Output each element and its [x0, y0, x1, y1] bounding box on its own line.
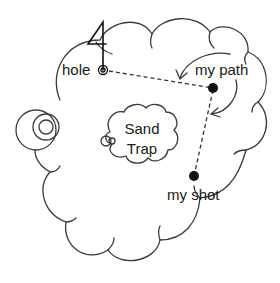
sand-label-line2: Trap: [127, 140, 157, 157]
golf-diagram: Sand Trap hole my path my shot: [0, 0, 280, 283]
sand-label-line1: Sand: [124, 120, 159, 137]
ball-position: [208, 83, 218, 93]
flag-icon: [88, 22, 106, 70]
my-shot-ball: [189, 171, 199, 181]
sand-trap: Sand Trap: [101, 105, 178, 164]
tee-icon: [16, 110, 59, 150]
my-path-label: my path: [195, 61, 248, 78]
path-ball-to-shot: [194, 90, 213, 176]
my-shot-label: my shot: [167, 186, 220, 203]
hole-label: hole: [62, 61, 90, 78]
